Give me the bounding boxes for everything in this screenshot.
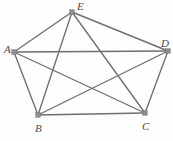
- graph-vertex-e: [70, 10, 75, 15]
- graph-vertex-c: [143, 111, 148, 116]
- vertices-group: [12, 10, 171, 118]
- graph-edge-be: [38, 12, 72, 115]
- vertex-label-e: E: [77, 1, 84, 12]
- graph-vertex-a: [12, 50, 17, 55]
- graph-vertex-d: [166, 49, 171, 54]
- vertex-label-b: B: [35, 123, 42, 134]
- vertex-label-a: A: [4, 44, 11, 55]
- graph-figure: ABCDE: [0, 0, 173, 141]
- edges-group: [14, 12, 168, 115]
- graph-edge-bc: [38, 113, 145, 115]
- vertex-label-d: D: [161, 38, 169, 49]
- vertex-label-c: C: [142, 121, 149, 132]
- graph-edge-ea: [14, 12, 72, 52]
- graph-vertex-b: [36, 113, 41, 118]
- graph-edge-ad: [14, 51, 168, 52]
